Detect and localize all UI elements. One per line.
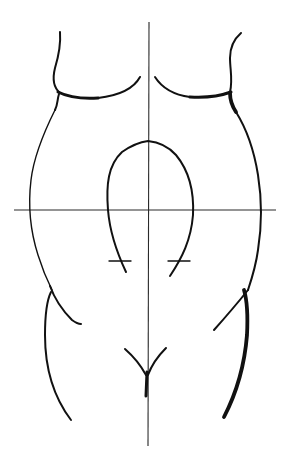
left-hip-contour [45,292,71,420]
right-shoulder-contour [155,33,241,97]
vertical-axis-line [148,22,149,446]
torso-diagram [0,0,288,461]
left-side-contour [30,94,81,324]
right-side-contour [214,93,261,330]
diagram-canvas: Line drawing of a front torso outline wi… [0,0,288,461]
central-arch [107,141,193,276]
right-hip-contour [224,290,247,417]
center-y-mark [125,348,166,396]
left-shoulder-contour [54,32,140,98]
